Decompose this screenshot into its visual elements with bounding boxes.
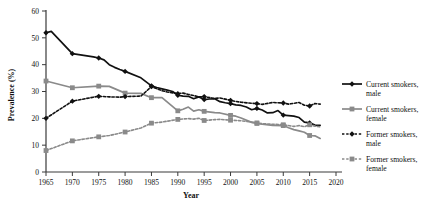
data-point-marker — [96, 134, 101, 139]
x-tick-label: 2005 — [249, 178, 264, 187]
y-tick-label: 10 — [32, 141, 40, 150]
data-point-marker — [175, 108, 180, 113]
legend-label-line1: Current smokers, — [366, 105, 418, 114]
x-tick-label: 2020 — [329, 178, 344, 187]
x-tick-label: 1985 — [144, 178, 159, 187]
x-tick-label: 2000 — [223, 178, 238, 187]
data-point-marker — [228, 113, 233, 118]
y-tick-label: 0 — [35, 168, 39, 177]
y-tick-label: 50 — [32, 34, 40, 43]
data-point-marker — [149, 121, 154, 126]
y-tick-label: 30 — [32, 87, 40, 96]
x-tick-label: 1970 — [65, 178, 80, 187]
x-axis-title: Year — [183, 191, 199, 200]
data-point-marker — [123, 130, 128, 135]
data-point-marker — [350, 157, 355, 162]
data-point-marker — [281, 122, 286, 127]
data-point-marker — [96, 84, 101, 89]
legend-label-line2: male — [366, 139, 381, 148]
x-tick-label: 1975 — [91, 178, 106, 187]
data-point-marker — [70, 85, 75, 90]
legend-label-line1: Former smokers, — [366, 155, 418, 164]
data-point-marker — [350, 107, 355, 112]
data-point-marker — [307, 122, 312, 127]
data-point-marker — [70, 138, 75, 143]
data-point-marker — [202, 109, 207, 114]
x-tick-label: 1995 — [197, 178, 212, 187]
prevalence-line-chart: 0102030405060 19651970197519801985199019… — [0, 0, 442, 213]
data-point-marker — [44, 148, 49, 153]
data-point-marker — [228, 118, 233, 123]
data-point-marker — [202, 118, 207, 123]
data-point-marker — [44, 79, 49, 84]
legend-label-line1: Former smokers, — [366, 130, 418, 139]
data-point-marker — [307, 133, 312, 138]
data-point-marker — [175, 117, 180, 122]
y-tick-label: 20 — [32, 114, 40, 123]
x-tick-label: 2010 — [276, 178, 291, 187]
legend-label-line2: female — [366, 114, 387, 123]
x-tick-label: 1980 — [118, 178, 133, 187]
x-tick-label: 2015 — [302, 178, 317, 187]
chart-container: 0102030405060 19651970197519801985199019… — [0, 0, 442, 213]
y-tick-label: 60 — [32, 7, 40, 16]
x-tick-label: 1990 — [170, 178, 185, 187]
x-tick-label: 1965 — [39, 178, 54, 187]
y-axis-title: Prevalence (%) — [7, 68, 16, 121]
legend-label-line1: Current smokers, — [366, 80, 418, 89]
legend-label-line2: male — [366, 89, 381, 98]
legend-label-line2: female — [366, 164, 387, 173]
data-point-marker — [149, 95, 154, 100]
y-tick-label: 40 — [32, 60, 40, 69]
data-point-marker — [255, 120, 260, 125]
